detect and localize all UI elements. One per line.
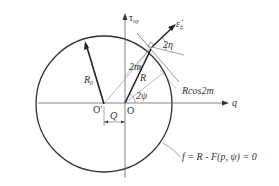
shifted-origin-label: O' bbox=[93, 105, 102, 115]
q-axis-arrow-icon bbox=[222, 101, 229, 106]
psi-angle-label: 2ψ bbox=[136, 91, 147, 101]
strain-rate-label: ε̇ij bbox=[176, 19, 183, 30]
q-axis-label: q bbox=[232, 98, 237, 108]
r0-label: R0 bbox=[84, 75, 93, 86]
r-label: R bbox=[140, 73, 146, 83]
tau-axis-arrow-icon bbox=[123, 13, 128, 20]
tau-subscript: oy bbox=[133, 18, 139, 24]
origin-label: O bbox=[127, 106, 134, 116]
q-dim-arrow-right-icon bbox=[121, 121, 125, 124]
yield-function-label: f = R - F(p, ψ) = 0 bbox=[182, 152, 257, 162]
m-angle-label: 2m bbox=[129, 62, 141, 72]
offset-q-label: Q bbox=[110, 111, 117, 121]
strain-rate-subscript: ij bbox=[180, 24, 183, 30]
eta-angle-label: 2η bbox=[163, 40, 173, 50]
projection-leader bbox=[160, 70, 176, 88]
yield-surface-diagram: τoy ε̇ij 2η 2m R0 R Rcos2m 2ψ O' O q Q f… bbox=[0, 0, 279, 186]
tau-axis-label: τoy bbox=[129, 13, 139, 24]
yield-function-leader bbox=[163, 143, 180, 157]
r0-subscript: 0 bbox=[90, 80, 93, 86]
q-dim-arrow-left-icon bbox=[104, 121, 108, 124]
projection-label: Rcos2m bbox=[182, 86, 214, 96]
r0-arrow-icon bbox=[84, 41, 89, 50]
